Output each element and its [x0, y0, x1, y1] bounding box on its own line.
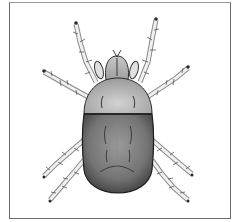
mite-illustration	[0, 0, 238, 222]
mite-front-body	[84, 78, 152, 114]
